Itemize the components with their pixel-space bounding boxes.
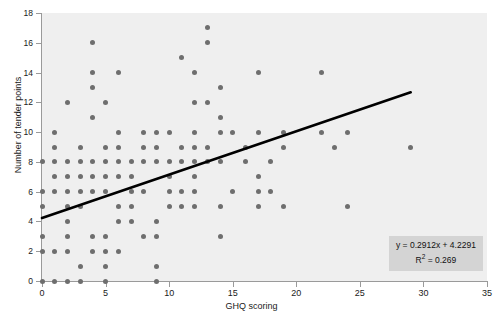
regression-annotation-box: y = 0.2912x + 4.2291 R2 = 0.269 — [389, 236, 483, 271]
data-point — [319, 130, 324, 135]
scatter-chart: 024681012141618 05101520253035 y = 0.291… — [0, 0, 503, 317]
data-point — [256, 70, 261, 75]
data-point — [40, 279, 45, 284]
data-point — [141, 130, 146, 135]
data-point — [116, 204, 121, 209]
x-tick-label: 0 — [27, 289, 57, 298]
y-tick-label: 0 — [0, 277, 33, 285]
x-tick — [169, 282, 170, 287]
data-point — [103, 100, 108, 105]
data-point — [256, 189, 261, 194]
data-point — [78, 204, 83, 209]
y-tick — [36, 102, 41, 103]
data-point — [40, 204, 45, 209]
data-point — [103, 249, 108, 254]
data-point — [192, 130, 197, 135]
data-point — [116, 249, 121, 254]
data-point — [116, 145, 121, 150]
y-tick-label: 16 — [0, 39, 33, 47]
data-point — [205, 100, 210, 105]
data-point — [129, 204, 134, 209]
data-point — [218, 234, 223, 239]
x-tick-label: 20 — [281, 289, 311, 298]
data-point — [154, 130, 159, 135]
data-point — [218, 115, 223, 120]
data-point — [65, 100, 70, 105]
data-point — [103, 279, 108, 284]
data-point — [65, 249, 70, 254]
data-point — [218, 159, 223, 164]
data-point — [345, 204, 350, 209]
data-point — [167, 204, 172, 209]
y-tick — [36, 221, 41, 222]
data-point — [129, 189, 134, 194]
y-tick — [36, 43, 41, 44]
r-squared-line: R2 = 0.269 — [396, 251, 476, 266]
data-point — [52, 145, 57, 150]
data-point — [78, 189, 83, 194]
data-point — [78, 279, 83, 284]
data-point — [218, 204, 223, 209]
x-tick — [296, 282, 297, 287]
data-point — [256, 174, 261, 179]
data-point — [116, 219, 121, 224]
data-point — [103, 234, 108, 239]
data-point — [192, 100, 197, 105]
data-point — [281, 130, 286, 135]
data-point — [167, 189, 172, 194]
data-point — [116, 70, 121, 75]
y-tick-label: 18 — [0, 9, 33, 17]
data-point — [129, 219, 134, 224]
x-axis-line — [41, 281, 488, 282]
data-point — [103, 264, 108, 269]
data-point — [154, 264, 159, 269]
x-tick-label: 15 — [218, 289, 248, 298]
data-point — [129, 159, 134, 164]
data-point — [154, 234, 159, 239]
data-point — [256, 204, 261, 209]
data-point — [256, 130, 261, 135]
x-tick-label: 25 — [345, 289, 375, 298]
data-point — [52, 279, 57, 284]
data-point — [167, 130, 172, 135]
y-tick-label: 2 — [0, 247, 33, 255]
data-point — [40, 234, 45, 239]
y-axis-line — [41, 13, 42, 282]
y-tick — [36, 132, 41, 133]
x-tick-label: 35 — [472, 289, 502, 298]
data-point — [154, 219, 159, 224]
data-point — [332, 145, 337, 150]
data-point — [205, 145, 210, 150]
data-point — [78, 145, 83, 150]
data-point — [78, 264, 83, 269]
x-tick-label: 30 — [408, 289, 438, 298]
r-squared-value: = 0.269 — [425, 255, 456, 265]
data-point — [65, 204, 70, 209]
data-point — [230, 130, 235, 135]
data-point — [408, 145, 413, 150]
y-tick-label: 4 — [0, 217, 33, 225]
data-point — [179, 145, 184, 150]
data-point — [154, 279, 159, 284]
data-point — [129, 174, 134, 179]
y-tick — [36, 73, 41, 74]
data-point — [40, 159, 45, 164]
data-point — [78, 174, 83, 179]
data-point — [103, 145, 108, 150]
x-tick — [423, 282, 424, 287]
data-point — [154, 145, 159, 150]
data-point — [65, 279, 70, 284]
data-point — [281, 145, 286, 150]
data-point — [345, 130, 350, 135]
data-point — [141, 145, 146, 150]
data-point — [192, 145, 197, 150]
data-point — [167, 174, 172, 179]
data-point — [40, 189, 45, 194]
data-point — [52, 249, 57, 254]
x-axis-title: GHQ scoring — [0, 301, 503, 311]
data-point — [40, 249, 45, 254]
data-point — [52, 130, 57, 135]
x-tick — [233, 282, 234, 287]
y-tick — [36, 13, 41, 14]
data-point — [218, 130, 223, 135]
